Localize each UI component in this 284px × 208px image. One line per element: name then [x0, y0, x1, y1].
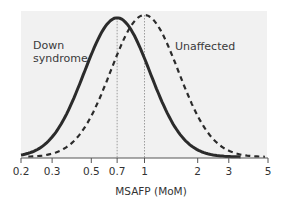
- x-tick-label: 0.5: [83, 165, 100, 177]
- distribution-chart: 0.20.30.50.71235 Down syndrome Unaffecte…: [0, 0, 284, 208]
- x-tick-label: 3: [225, 165, 232, 177]
- x-tick-label: 5: [265, 165, 272, 177]
- plot-background: [21, 11, 267, 158]
- x-tick-label: 0.2: [13, 165, 30, 177]
- x-axis-ticks: 0.20.30.50.71235: [13, 158, 272, 177]
- x-tick-label: 2: [194, 165, 201, 177]
- unaffected-label: Unaffected: [175, 40, 235, 53]
- x-axis-title: MSAFP (MoM): [115, 185, 187, 197]
- x-tick-label: 0.7: [109, 165, 126, 177]
- down-syndrome-label-line2: syndrome: [33, 52, 88, 65]
- x-tick-label: 1: [141, 165, 148, 177]
- down-syndrome-label-line1: Down: [33, 39, 64, 52]
- x-tick-label: 0.3: [44, 165, 61, 177]
